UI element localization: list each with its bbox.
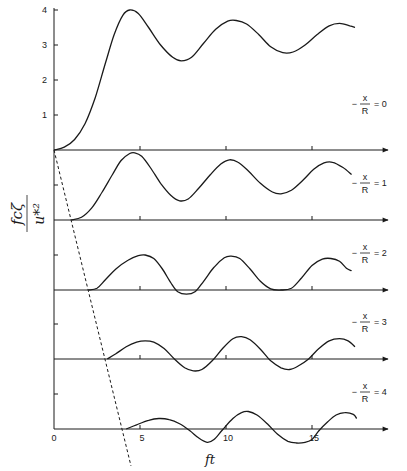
y-axis-title-numerator: fcζ — [8, 202, 26, 226]
fraction-denominator: R — [362, 255, 369, 265]
fraction-denominator: R — [362, 106, 369, 116]
fraction-denominator: R — [362, 185, 369, 195]
x-axis-title: ft — [204, 452, 216, 467]
curves — [54, 10, 357, 466]
dashed-onset-line — [54, 150, 131, 466]
chart-figure: 1234051015 −xR= 0−xR= 1−xR= 2−xR= 3−xR= … — [0, 0, 407, 471]
label-value: = 4 — [374, 387, 387, 397]
series-curve-0 — [54, 10, 355, 150]
label-value: = 1 — [374, 178, 387, 188]
y-tick-label: 4 — [42, 5, 47, 15]
fraction-numerator: x — [363, 381, 368, 391]
y-tick-label: 1 — [42, 110, 47, 120]
panel-label-1: −xR= 1 — [352, 172, 387, 195]
x-tick-label: 0 — [51, 433, 56, 443]
panel-label-3: −xR= 3 — [352, 311, 387, 334]
y-tick-label: 2 — [42, 75, 47, 85]
fraction-denominator: R — [362, 394, 369, 404]
panel-label-4: −xR= 4 — [352, 381, 387, 404]
y-axis-title: fcζ u*² — [8, 195, 47, 232]
panel-label-0: −xR= 0 — [352, 93, 387, 116]
panel-labels: −xR= 0−xR= 1−xR= 2−xR= 3−xR= 4 — [352, 93, 387, 404]
x-tick-label: 10 — [223, 433, 233, 443]
fraction-numerator: x — [363, 242, 368, 252]
y-tick-label: 3 — [42, 40, 47, 50]
y-axis-title-denominator: u*² — [31, 203, 47, 225]
minus-sign: − — [352, 248, 357, 258]
series-curve-3 — [107, 337, 355, 372]
minus-sign: − — [352, 317, 357, 327]
panel-label-2: −xR= 2 — [352, 242, 387, 265]
label-value: = 3 — [374, 317, 387, 327]
fraction-numerator: x — [363, 93, 368, 103]
series-curve-4 — [126, 411, 357, 443]
axes: 1234051015 — [42, 5, 388, 443]
minus-sign: − — [352, 99, 357, 109]
x-tick-label: 5 — [139, 433, 144, 443]
label-value: = 0 — [374, 99, 387, 109]
fraction-numerator: x — [363, 172, 368, 182]
fraction-numerator: x — [363, 311, 368, 321]
fraction-denominator: R — [362, 324, 369, 334]
minus-sign: − — [352, 178, 357, 188]
series-curve-1 — [71, 152, 351, 220]
minus-sign: − — [352, 387, 357, 397]
label-value: = 2 — [374, 248, 387, 258]
